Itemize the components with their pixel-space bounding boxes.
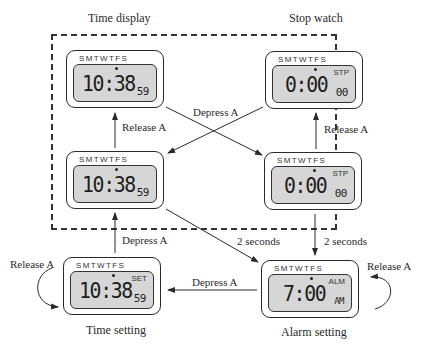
loop-release-a-left <box>38 268 58 307</box>
mode-indicator: STP <box>332 169 348 178</box>
mode-indicator: SET <box>131 274 147 283</box>
main-digits: 10:38 <box>79 278 132 304</box>
indicator-dot-icon <box>115 67 118 70</box>
watch-alarm-setting: SMTWTFS ALM 7:00 AM <box>261 260 359 318</box>
weekday-row: SMTWTFS <box>277 156 326 165</box>
label-depress-a-up: Depress A <box>122 234 168 246</box>
lcd-screen: STP 0:00 00 <box>271 166 355 204</box>
indicator-dot-icon <box>112 274 115 277</box>
weekday-row: SMTWTFS <box>79 54 128 63</box>
sub-digits: 59 <box>137 186 149 199</box>
indicator-dot-icon <box>313 169 316 172</box>
watch-stopwatch: SMTWTFS STP 0:00 00 <box>265 51 363 109</box>
label-release-a-loop-left: Release A <box>10 258 54 270</box>
watch-stopwatch-depressed: SMTWTFS STP 0:00 00 <box>264 152 362 210</box>
indicator-dot-icon <box>115 168 118 171</box>
weekday-row: SMTWTFS <box>76 261 125 270</box>
label-release-a-right: Release A <box>324 123 368 135</box>
lcd-screen: STP 0:00 00 <box>272 65 356 103</box>
main-digits: 7:00 <box>283 281 325 307</box>
lcd-screen: 10:38 59 <box>73 64 157 102</box>
sub-digits: 00 <box>335 187 347 200</box>
main-digits: 0:00 <box>284 173 326 199</box>
main-digits: 10:38 <box>82 71 135 97</box>
lcd-screen: 10:38 59 <box>73 165 157 203</box>
mode-indicator: ALM <box>329 277 345 286</box>
lcd-screen: ALM 7:00 AM <box>268 274 352 312</box>
sub-digits: AM <box>334 296 344 306</box>
main-digits: 10:38 <box>82 172 135 198</box>
weekday-row: SMTWTFS <box>278 55 327 64</box>
label-2-seconds-right: 2 seconds <box>324 235 367 247</box>
watch-time-display: SMTWTFS 10:38 59 <box>66 50 164 108</box>
watch-time-display-depressed: SMTWTFS 10:38 59 <box>66 151 164 209</box>
sub-digits: 00 <box>336 86 348 99</box>
label-release-a-left: Release A <box>122 121 166 133</box>
sub-digits: 59 <box>137 85 149 98</box>
lcd-screen: SET 10:38 59 <box>70 271 154 309</box>
indicator-dot-icon <box>314 68 317 71</box>
label-release-a-loop-right: Release A <box>367 260 411 272</box>
weekday-row: SMTWTFS <box>79 155 128 164</box>
main-digits: 0:00 <box>285 72 327 98</box>
sub-digits: 59 <box>134 292 146 305</box>
watch-time-setting: SMTWTFS SET 10:38 59 <box>63 257 161 315</box>
weekday-row: SMTWTFS <box>274 264 323 273</box>
indicator-dot-icon <box>310 277 313 280</box>
label-2-seconds-diag: 2 seconds <box>237 235 280 247</box>
loop-release-a-right <box>371 277 391 309</box>
label-depress-a-cross: Depress A <box>193 106 239 118</box>
label-depress-a-bottom: Depress A <box>192 276 238 288</box>
mode-indicator: STP <box>333 68 349 77</box>
